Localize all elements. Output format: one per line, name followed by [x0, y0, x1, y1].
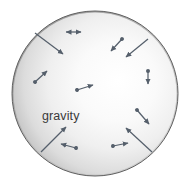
gravity-label: gravity [42, 109, 80, 123]
sphere-group [12, 11, 178, 176]
gravity-sphere-figure: gravity [0, 0, 191, 184]
sphere-surface [14, 13, 177, 175]
diagram-canvas: gravity [0, 0, 191, 184]
